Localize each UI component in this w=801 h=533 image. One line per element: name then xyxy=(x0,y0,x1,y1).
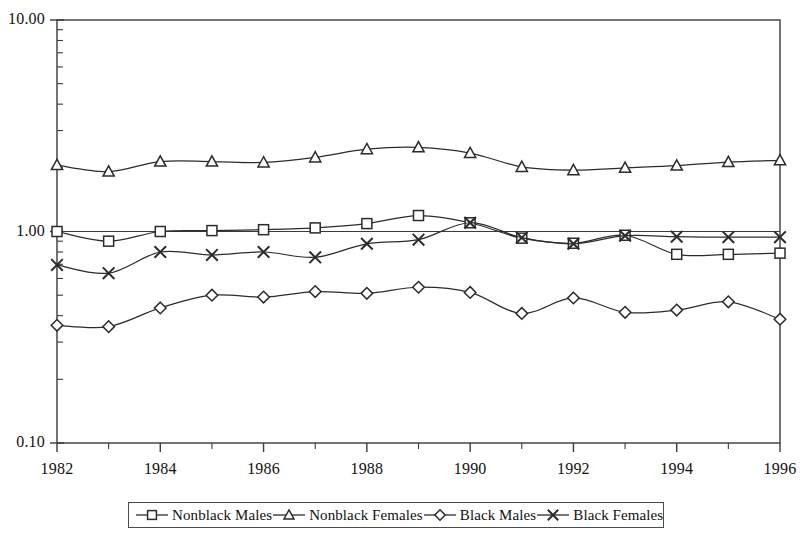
data-point-black-males-1990 xyxy=(464,287,476,299)
data-point-nonblack-males-1988 xyxy=(362,219,372,229)
data-point-black-females-1989 xyxy=(413,234,425,246)
y-axis-tick-label: 0.10 xyxy=(0,433,45,451)
x-axis-tick-label: 1982 xyxy=(22,460,92,478)
chart-legend: Nonblack MalesNonblack FemalesBlack Male… xyxy=(128,502,664,528)
data-point-nonblack-males-1995 xyxy=(723,249,733,259)
legend-label: Nonblack Males xyxy=(172,507,272,524)
data-point-nonblack-males-1983 xyxy=(104,236,114,246)
legend-entry-nonblack-males[interactable]: Nonblack Males xyxy=(135,507,272,524)
data-point-nonblack-males-1982 xyxy=(52,227,62,237)
x-axis-tick-label: 1992 xyxy=(538,460,608,478)
data-point-black-males-1985 xyxy=(206,289,218,301)
x-axis-tick-label: 1990 xyxy=(435,460,505,478)
diamond-marker-icon xyxy=(423,507,457,523)
data-point-black-males-1983 xyxy=(103,321,115,333)
square-marker-icon xyxy=(135,507,169,523)
x-axis-tick-label: 1984 xyxy=(125,460,195,478)
legend-entry-nonblack-females[interactable]: Nonblack Females xyxy=(272,507,423,524)
data-point-black-males-1992 xyxy=(568,292,580,304)
data-point-black-males-1994 xyxy=(671,304,683,316)
cross-marker-icon xyxy=(536,507,570,523)
data-point-black-males-1986 xyxy=(258,291,270,303)
data-point-black-males-1995 xyxy=(723,296,735,308)
x-axis-tick-label: 1986 xyxy=(229,460,299,478)
data-point-nonblack-males-1985 xyxy=(207,226,217,236)
legend-entry-black-males[interactable]: Black Males xyxy=(423,507,537,524)
x-axis-tick-label: 1994 xyxy=(642,460,712,478)
y-axis-tick-label: 10.00 xyxy=(0,10,45,28)
x-axis-tick-label: 1996 xyxy=(745,460,801,478)
data-point-black-males-1993 xyxy=(619,306,631,318)
data-point-nonblack-females-1996 xyxy=(774,155,785,165)
legend-label: Black Males xyxy=(460,507,537,524)
data-point-black-males-1982 xyxy=(51,320,63,332)
data-point-nonblack-females-1982 xyxy=(51,159,62,169)
y-axis-tick-label: 1.00 xyxy=(0,222,45,240)
data-point-nonblack-males-1989 xyxy=(414,211,424,221)
x-axis-tick-label: 1988 xyxy=(332,460,402,478)
data-point-black-males-1987 xyxy=(309,286,321,298)
data-point-black-males-1991 xyxy=(516,308,528,320)
data-point-nonblack-males-1986 xyxy=(259,225,269,235)
data-point-black-males-1989 xyxy=(413,281,425,293)
data-point-nonblack-males-1987 xyxy=(310,223,320,233)
data-point-nonblack-males-1994 xyxy=(672,249,682,259)
data-point-black-males-1996 xyxy=(774,313,786,325)
triangle-marker-icon xyxy=(272,507,306,523)
data-point-nonblack-males-1996 xyxy=(775,248,785,258)
legend-entry-black-females[interactable]: Black Females xyxy=(536,507,663,524)
data-point-black-males-1988 xyxy=(361,288,373,300)
legend-label: Black Females xyxy=(573,507,663,524)
data-point-black-males-1984 xyxy=(154,302,166,314)
legend-label: Nonblack Females xyxy=(309,507,423,524)
data-point-nonblack-males-1984 xyxy=(155,227,165,237)
